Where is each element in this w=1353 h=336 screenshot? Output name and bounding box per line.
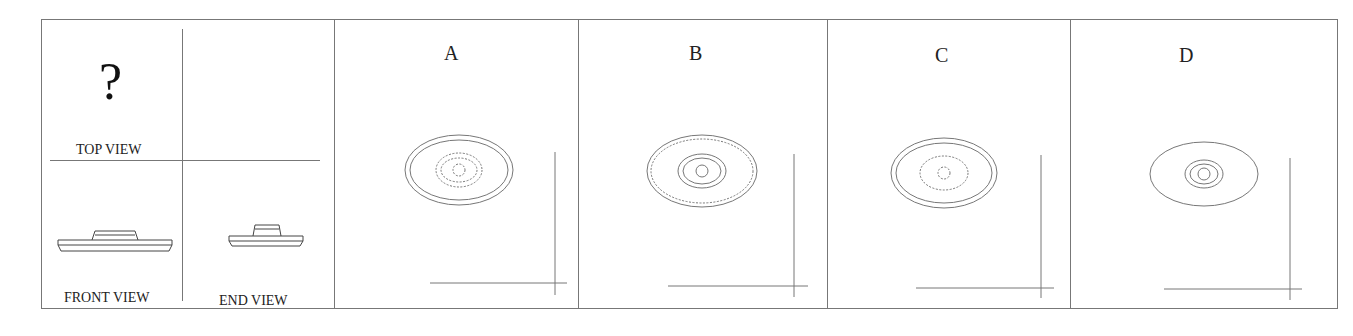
option-d-axes [1164, 158, 1304, 303]
option-c-axes [916, 155, 1056, 300]
end-view-drawing [228, 223, 308, 253]
end-view-label: END VIEW [219, 293, 288, 309]
top-view-question-mark: ? [99, 52, 122, 111]
option-a-axes [430, 152, 570, 297]
top-view-label: TOP VIEW [76, 142, 141, 158]
question-vertical-divider [182, 29, 183, 301]
panel-divider-a-b [578, 19, 579, 309]
option-a-label: A [444, 42, 458, 65]
question-horizontal-divider [50, 160, 320, 161]
panel-divider-b-c [827, 19, 828, 309]
front-view-drawing [56, 226, 176, 256]
option-d-label: D [1179, 44, 1193, 67]
option-c-label: C [935, 44, 948, 67]
option-b-axes [668, 154, 808, 299]
front-view-label: FRONT VIEW [64, 290, 149, 306]
panel-divider-c-d [1070, 19, 1071, 309]
option-b-label: B [689, 42, 702, 65]
panel-divider-question [334, 19, 335, 309]
